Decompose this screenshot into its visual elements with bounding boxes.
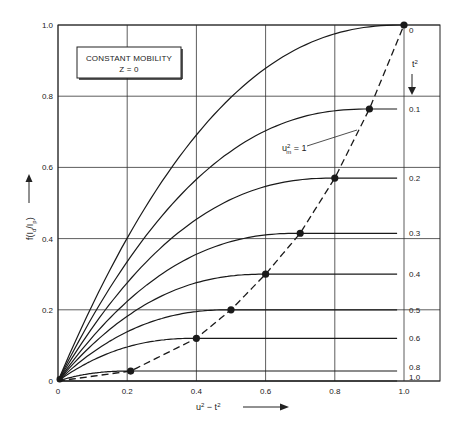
y-tick-label: 0 [49,377,54,386]
svg-text:u2 − t2: u2 − t2 [196,402,221,412]
series-curve [58,338,397,381]
series-label: 0.1 [409,105,421,114]
x-tick-label: 0.6 [260,387,272,396]
series-label: 0.3 [409,229,421,238]
y-axis-label: f(Id/Ip) [25,174,37,240]
series-curve [58,233,397,381]
series-curve [58,371,397,381]
series-label: 0.6 [409,334,421,343]
x-tick-label: 0 [56,387,61,396]
y-tick-label: 0.4 [42,235,54,244]
series-labels: 00.10.20.30.40.50.60.81.0 [409,26,421,382]
x-tick-label: 0.8 [329,387,341,396]
box-line-1: CONSTANT MOBILITY [86,54,173,63]
svg-text:f(Id/Ip): f(Id/Ip) [25,217,37,240]
y-tick-label: 0.2 [42,306,54,315]
x-tick-label: 0.2 [122,387,134,396]
annotation-box: CONSTANT MOBILITY Z = 0 [77,47,182,79]
line-chart: 00.20.40.60.81.000.20.40.60.81.0 00.10.2… [0,0,461,431]
right-arrow-icon [280,404,289,411]
data-point-marker [227,306,234,313]
series-label: 1.0 [409,373,421,382]
x-tick-label: 0.4 [191,387,203,396]
chart-container: 00.20.40.60.81.000.20.40.60.81.0 00.10.2… [0,0,461,431]
series-label: 0.2 [409,174,421,183]
series-label: 0.8 [409,363,421,372]
y-tick-label: 0.6 [42,163,54,172]
y-tick-label: 0.8 [42,92,54,101]
series-label: 0 [409,26,414,35]
data-point-marker [193,335,200,342]
data-point-marker [127,367,134,374]
x-axis-label: u2 − t2 [196,402,289,412]
series-curve [58,109,397,381]
box-line-2: Z = 0 [119,65,139,74]
data-point-marker [331,174,338,181]
y-tick-label: 1.0 [42,21,54,30]
callout-label: u2m = 1 [282,143,307,155]
x-tick-label: 1.0 [398,387,410,396]
data-point-marker [262,271,269,278]
dashed-curve-callout: u2m = 1 [282,130,357,155]
data-point-marker [400,21,407,28]
series-label: 0.5 [409,306,421,315]
origin-marker [57,376,63,382]
parameter-indicator: t2 [408,59,419,95]
series-curve [58,178,397,381]
data-point-marker [297,230,304,237]
data-point-marker [366,105,373,112]
up-arrow-icon [26,174,33,182]
series-curve [58,310,397,381]
parameter-label: t2 [412,59,419,69]
arrow-head-icon [408,87,416,95]
series-label: 0.4 [409,270,421,279]
